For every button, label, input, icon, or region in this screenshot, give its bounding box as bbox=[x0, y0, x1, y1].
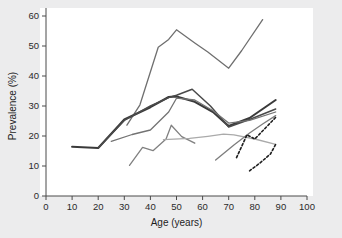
y-tick-label: 20 bbox=[28, 130, 39, 141]
x-tick-label: 100 bbox=[299, 201, 315, 212]
x-tick-label: 90 bbox=[276, 201, 287, 212]
y-tick-label: 40 bbox=[28, 70, 39, 81]
prevalence-by-age-line-chart: 0102030405060 0102030405060708090100 Age… bbox=[0, 0, 342, 238]
x-tick-label: 80 bbox=[250, 201, 261, 212]
y-tick-label: 10 bbox=[28, 160, 39, 171]
y-tick-label: 60 bbox=[28, 10, 39, 21]
x-tick-label: 70 bbox=[223, 201, 234, 212]
y-tick-label: 0 bbox=[34, 190, 39, 201]
y-axis-title: Prevalence (%) bbox=[7, 72, 18, 140]
x-tick-label: 0 bbox=[43, 201, 48, 212]
x-tick-label: 20 bbox=[93, 201, 104, 212]
y-tick-label: 30 bbox=[28, 100, 39, 111]
chart-figure: 0102030405060 0102030405060708090100 Age… bbox=[0, 0, 342, 238]
x-axis-title: Age (years) bbox=[151, 217, 203, 228]
x-tick-label: 50 bbox=[171, 201, 182, 212]
x-tick-label: 10 bbox=[67, 201, 78, 212]
x-tick-label: 60 bbox=[197, 201, 208, 212]
y-tick-label: 50 bbox=[28, 40, 39, 51]
x-tick-label: 30 bbox=[119, 201, 130, 212]
x-tick-label: 40 bbox=[145, 201, 156, 212]
